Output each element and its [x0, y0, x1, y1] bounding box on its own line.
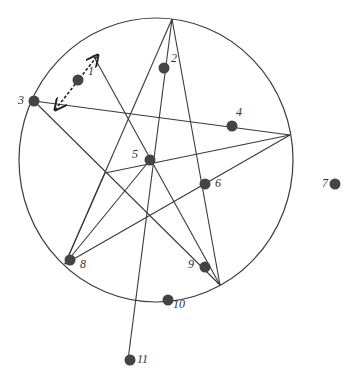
point-11: 11 [125, 352, 149, 366]
point-7: 7 [322, 176, 341, 190]
outer-circle [19, 18, 293, 302]
point-label: 6 [215, 176, 221, 190]
point-label: 2 [171, 51, 177, 65]
point-label: 9 [188, 257, 194, 271]
dot-marker [159, 63, 170, 74]
connector-line [65, 135, 290, 264]
connector-line [34, 101, 290, 135]
point-label: 7 [322, 176, 329, 190]
dot-marker [65, 255, 76, 266]
dot-marker [163, 295, 174, 306]
point-label: 11 [137, 352, 148, 366]
dot-marker [125, 355, 136, 366]
point-label: 10 [173, 297, 185, 311]
point-label: 1 [88, 64, 94, 78]
numbered-points: 1234567891011 [17, 51, 341, 366]
pentagram-diagram: 1234567891011 [0, 0, 355, 383]
point-3: 3 [17, 93, 40, 107]
dot-marker [227, 121, 238, 132]
point-4: 4 [227, 105, 243, 132]
dot-marker [330, 179, 341, 190]
dot-marker [145, 155, 156, 166]
point-label: 8 [80, 257, 86, 271]
connector-line [65, 173, 105, 264]
point-10: 10 [163, 295, 186, 312]
connector-line [93, 55, 220, 285]
dot-marker [200, 179, 211, 190]
point-5: 5 [132, 147, 156, 166]
point-label: 5 [132, 147, 138, 161]
dot-marker [29, 96, 40, 107]
point-6: 6 [200, 176, 222, 190]
point-label: 4 [236, 105, 242, 119]
dot-marker [200, 262, 211, 273]
dot-marker [73, 75, 84, 86]
connector-line [65, 160, 150, 264]
point-label: 3 [17, 93, 24, 107]
